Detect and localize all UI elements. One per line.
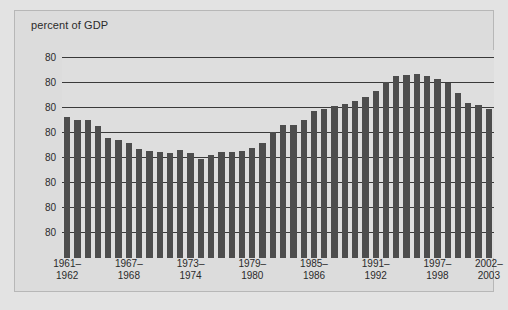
bar <box>373 91 379 258</box>
x-axis-tick-label: 1997–1998 <box>424 258 452 282</box>
bar <box>331 106 337 258</box>
bar <box>239 151 245 258</box>
bar <box>249 148 255 258</box>
bar <box>115 140 121 258</box>
x-axis-tick-label-line2: 1974 <box>177 270 205 282</box>
x-axis-tick-label-line1: 1979– <box>238 258 266 269</box>
bar <box>74 120 80 258</box>
x-axis-tick-label-line1: 1985– <box>300 258 328 269</box>
x-axis-tick-label: 1979–1980 <box>238 258 266 282</box>
bar <box>198 159 204 258</box>
bar <box>229 152 235 258</box>
bar <box>146 151 152 258</box>
bar-series <box>62 50 494 258</box>
bar <box>424 76 430 258</box>
x-axis-tick-label-line2: 1998 <box>424 270 452 282</box>
x-axis-tick-label: 1961–1962 <box>53 258 81 282</box>
bar <box>85 120 91 258</box>
bar <box>342 104 348 258</box>
bar <box>95 126 101 258</box>
bar <box>486 109 492 258</box>
y-axis-tick-label: 80 <box>45 227 56 238</box>
bar <box>187 153 193 258</box>
x-axis-tick-label: 1973–1974 <box>177 258 205 282</box>
bar <box>445 83 451 258</box>
x-axis-tick-label-line1: 1973– <box>177 258 205 269</box>
x-axis-tick-label-line2: 1986 <box>300 270 328 282</box>
bar <box>393 76 399 258</box>
bar <box>177 150 183 258</box>
bar <box>301 120 307 258</box>
chart-figure: percent of GDP 8080808080808080 1961–196… <box>0 0 508 310</box>
bar <box>475 105 481 258</box>
x-axis-tick-label-line1: 1961– <box>53 258 81 269</box>
x-axis-tick-label: 1967–1968 <box>115 258 143 282</box>
x-axis-tick-label-line1: 2002– <box>475 258 503 269</box>
y-axis-tick-label: 80 <box>45 177 56 188</box>
y-axis-tick-label: 80 <box>45 52 56 63</box>
bar <box>280 125 286 258</box>
bar <box>321 109 327 258</box>
bar <box>270 132 276 258</box>
x-axis-tick-label-line2: 1962 <box>53 270 81 282</box>
chart-card: percent of GDP 8080808080808080 1961–196… <box>14 10 494 292</box>
x-axis-tick-label: 2002–2003 <box>475 258 503 282</box>
bar <box>403 75 409 258</box>
bar <box>465 103 471 258</box>
x-axis-tick-label-line2: 1980 <box>238 270 266 282</box>
bar <box>290 125 296 258</box>
bar <box>105 138 111 258</box>
x-axis-tick-label-line2: 1968 <box>115 270 143 282</box>
bar <box>259 143 265 258</box>
bar <box>126 143 132 258</box>
bar <box>136 149 142 258</box>
x-axis-tick-label-line1: 1997– <box>424 258 452 269</box>
bar <box>362 97 368 258</box>
y-axis-tick-label: 80 <box>45 127 56 138</box>
bar <box>208 155 214 258</box>
y-axis-tick-label: 80 <box>45 77 56 88</box>
bar <box>157 152 163 258</box>
bar <box>383 82 389 258</box>
y-axis-tick-label: 80 <box>45 202 56 213</box>
y-axis-tick-label: 80 <box>45 102 56 113</box>
y-axis-tick-label: 80 <box>45 152 56 163</box>
bar <box>434 79 440 258</box>
bar <box>311 111 317 258</box>
x-axis-tick-label: 1991–1992 <box>362 258 390 282</box>
x-axis-tick-label-line2: 2003 <box>475 270 503 282</box>
x-axis-tick-label-line2: 1992 <box>362 270 390 282</box>
x-axis-tick-label-line1: 1991– <box>362 258 390 269</box>
bar <box>455 93 461 258</box>
x-axis-tick-labels: 1961–19621967–19681973–19741979–19801985… <box>62 258 494 298</box>
chart-title: percent of GDP <box>31 19 108 31</box>
plot-area: 8080808080808080 <box>62 50 494 258</box>
bar <box>167 153 173 258</box>
bar <box>218 152 224 258</box>
bar <box>352 101 358 258</box>
x-axis-tick-label: 1985–1986 <box>300 258 328 282</box>
x-axis-tick-label-line1: 1967– <box>115 258 143 269</box>
bar <box>414 74 420 258</box>
bar <box>64 117 70 258</box>
